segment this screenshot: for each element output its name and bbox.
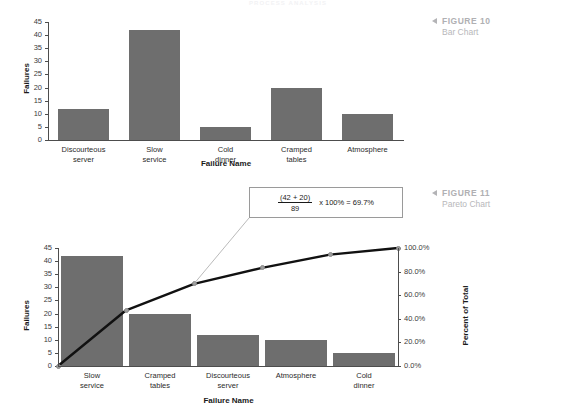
figure-10-title: Bar Chart: [442, 27, 562, 38]
bar-chart-x-axis-title: Failure Name: [48, 159, 404, 168]
callout-fraction: (42 + 20) 89: [278, 193, 312, 213]
cumulative-point-marker: [192, 281, 197, 286]
figure-10-caption: FIGURE 10 Bar Chart: [432, 16, 562, 38]
pareto-chart-y-axis-line: [58, 248, 59, 367]
caption-triangle-icon: [432, 18, 437, 24]
caption-triangle-icon: [432, 190, 437, 196]
pareto-callout-box: (42 + 20) 89 x 100% = 69.7%: [249, 187, 403, 218]
category-label: Atmosphere: [332, 145, 403, 155]
callout-denominator: 89: [289, 203, 301, 213]
bar: [61, 256, 124, 366]
callout-expression: x 100% = 69.7%: [319, 198, 374, 207]
bar: [342, 114, 393, 140]
cumulative-point-marker: [328, 252, 333, 257]
bar: [200, 127, 251, 140]
running-head: PROCESS ANALYSIS: [0, 0, 576, 6]
bar: [58, 109, 109, 140]
category-label: Slow service: [58, 371, 126, 390]
axis-tick-label: 15: [24, 323, 52, 331]
axis-tick-label: 0: [14, 136, 42, 144]
figure-10-number: FIGURE 10: [442, 16, 562, 27]
figure-11-title: Pareto Chart: [442, 199, 562, 210]
cumulative-point-marker: [124, 308, 129, 313]
pareto-chart-y2-axis-title: Percent of Total: [461, 271, 470, 361]
axis-tick-label: 60.0%: [404, 291, 444, 299]
axis-tick-label: 20.0%: [404, 338, 444, 346]
callout-numerator: (42 + 20): [278, 193, 312, 203]
bar-chart-plot-area: [48, 22, 403, 140]
pareto-chart-x-axis-line: [58, 366, 399, 367]
bar: [265, 340, 328, 366]
bar-chart-x-axis-line: [48, 140, 404, 141]
axis-tick-label: 40.0%: [404, 315, 444, 323]
axis-tick-label: 40: [14, 31, 42, 39]
bar: [271, 88, 322, 140]
axis-tick-label: 0: [24, 362, 52, 370]
axis-tick-label: 20: [14, 84, 42, 92]
pareto-chart-plot-area: [58, 248, 398, 366]
axis-tick-label: 35: [14, 44, 42, 52]
axis-tick-label: 80.0%: [404, 268, 444, 276]
axis-tick-label: 20: [24, 310, 52, 318]
axis-tick-label: 5: [14, 123, 42, 131]
axis-tick-label: 40: [24, 257, 52, 265]
axis-tick-label: 5: [24, 349, 52, 357]
bar: [129, 30, 180, 140]
bar: [129, 314, 192, 366]
axis-tick-label: 25: [14, 70, 42, 78]
axis-tick-label: 25: [24, 296, 52, 304]
bar-chart-y-axis-line: [48, 22, 49, 141]
pareto-chart-y2-axis-line: [398, 248, 399, 367]
bar: [197, 335, 260, 366]
axis-tick-label: 45: [14, 18, 42, 26]
axis-tick-label: 30: [14, 57, 42, 65]
pareto-chart-figure-11: Failures Percent of Total 05101520253035…: [0, 185, 500, 418]
cumulative-point-marker: [260, 265, 265, 270]
bar-chart-figure-10: Failures 051015202530354045 Discourteous…: [0, 12, 420, 177]
category-label: Atmosphere: [262, 371, 330, 381]
axis-tick-label: 10: [14, 110, 42, 118]
axis-tick-label: 15: [14, 97, 42, 105]
axis-tick-label: 45: [24, 244, 52, 252]
bar: [333, 353, 396, 366]
axis-tick-label: 100.0%: [404, 244, 444, 252]
pareto-chart-x-axis-title: Failure Name: [58, 396, 399, 405]
axis-tick-label: 0.0%: [404, 362, 444, 370]
axis-tick-label: 30: [24, 283, 52, 291]
figure-11-caption: FIGURE 11 Pareto Chart: [432, 188, 562, 210]
category-label: Discourteous server: [194, 371, 262, 390]
category-label: Cramped tables: [126, 371, 194, 390]
axis-tick-label: 35: [24, 270, 52, 278]
axis-tick-label: 10: [24, 336, 52, 344]
category-label: Cold dinner: [330, 371, 398, 390]
figure-11-number: FIGURE 11: [442, 188, 562, 199]
